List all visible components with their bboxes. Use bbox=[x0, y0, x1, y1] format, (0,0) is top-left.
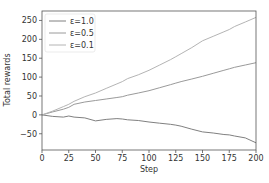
x-tick-label: 50 bbox=[90, 154, 100, 163]
x-tick-label: 100 bbox=[141, 154, 156, 163]
y-tick-label: 100 bbox=[22, 73, 37, 82]
x-tick-label: 0 bbox=[39, 154, 44, 163]
x-axis-label: Step bbox=[140, 165, 158, 174]
y-axis-ticks: −50050100150200250 bbox=[20, 16, 42, 138]
y-tick-label: 0 bbox=[32, 111, 37, 120]
x-tick-label: 75 bbox=[117, 154, 127, 163]
y-tick-label: −50 bbox=[20, 130, 37, 139]
series-line-0 bbox=[42, 115, 256, 143]
legend: ε=1.0ε=0.5ε=0.1 bbox=[45, 14, 95, 52]
x-tick-label: 150 bbox=[195, 154, 210, 163]
y-axis-label: Total rewards bbox=[3, 53, 12, 107]
x-tick-label: 25 bbox=[64, 154, 74, 163]
legend-label: ε=1.0 bbox=[70, 17, 94, 26]
legend-label: ε=0.1 bbox=[70, 41, 94, 50]
legend-label: ε=0.5 bbox=[70, 29, 94, 38]
x-tick-label: 125 bbox=[168, 154, 183, 163]
line-chart: −50050100150200250 025507510012515017520… bbox=[0, 0, 269, 183]
x-tick-label: 175 bbox=[222, 154, 237, 163]
x-axis-ticks: 0255075100125150175200 bbox=[39, 150, 263, 163]
y-tick-label: 50 bbox=[27, 92, 37, 101]
y-tick-label: 150 bbox=[22, 54, 37, 63]
y-tick-label: 200 bbox=[22, 35, 37, 44]
x-tick-label: 200 bbox=[248, 154, 263, 163]
y-tick-label: 250 bbox=[22, 16, 37, 25]
